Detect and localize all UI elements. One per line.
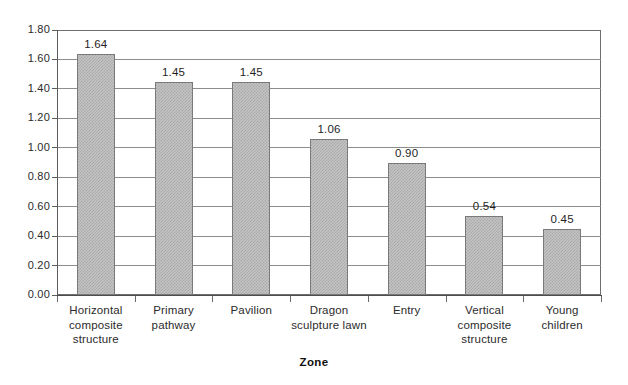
x-axis-title: Zone: [0, 356, 628, 368]
x-axis-tick-mark: [135, 296, 136, 302]
x-axis-category-label-line: Pavilion: [206, 303, 296, 318]
x-axis-category-label: Dragonsculpture lawn: [284, 303, 374, 332]
bar-value-label: 0.45: [532, 213, 592, 225]
x-axis-category-label-line: children: [517, 318, 607, 333]
x-axis-tick-mark: [212, 296, 213, 302]
x-axis-category-label: Entry: [362, 303, 452, 318]
y-axis-tick-label: 1.20: [4, 112, 50, 123]
x-axis-category-label-line: Young: [517, 303, 607, 318]
bar[interactable]: [77, 54, 115, 295]
x-axis-category-label: Verticalcompositestructure: [440, 303, 530, 347]
x-axis-category-label-line: structure: [51, 332, 141, 347]
bar[interactable]: [388, 163, 426, 296]
y-axis-tick-label: 1.40: [4, 83, 50, 94]
bar-group: [57, 30, 601, 295]
y-axis-tick-label: 1.60: [4, 53, 50, 64]
y-axis-tick-label: 1.00: [4, 142, 50, 153]
x-axis-tick-mark: [601, 296, 602, 302]
bar[interactable]: [155, 82, 193, 295]
x-axis-category-label-line: pathway: [129, 318, 219, 333]
x-axis-category-label-line: structure: [440, 332, 530, 347]
bar-value-label: 1.06: [299, 123, 359, 135]
x-axis-category-label-line: Entry: [362, 303, 452, 318]
bar-value-label: 0.54: [454, 200, 514, 212]
y-axis-tick-label: 0.80: [4, 171, 50, 182]
x-axis-category-label-line: Dragon: [284, 303, 374, 318]
x-axis-category-label-line: composite: [440, 318, 530, 333]
x-axis-category-label-line: sculpture lawn: [284, 318, 374, 333]
bar-value-label: 1.45: [144, 66, 204, 78]
x-axis-category-label: Horizontalcompositestructure: [51, 303, 141, 347]
x-axis-line: [57, 295, 602, 296]
x-axis-tick-mark: [446, 296, 447, 302]
bar-value-label: 1.45: [221, 66, 281, 78]
x-axis-tick-mark: [57, 296, 58, 302]
x-axis-category-label: Pavilion: [206, 303, 296, 318]
bar[interactable]: [232, 82, 270, 295]
bar-value-label: 0.90: [377, 147, 437, 159]
bar[interactable]: [543, 229, 581, 295]
bar-chart: 0.000.200.400.600.801.001.201.401.601.80…: [0, 0, 628, 385]
x-axis-category-label: Youngchildren: [517, 303, 607, 332]
x-axis-tick-mark: [368, 296, 369, 302]
bar[interactable]: [310, 139, 348, 295]
bar-value-label: 1.64: [66, 38, 126, 50]
x-axis-category-label-line: Primary: [129, 303, 219, 318]
bar[interactable]: [465, 216, 503, 296]
x-axis-category-label-line: composite: [51, 318, 141, 333]
x-axis-tick-mark: [523, 296, 524, 302]
y-axis-tick-label: 1.80: [4, 24, 50, 35]
y-axis-tick-label: 0.60: [4, 201, 50, 212]
x-axis-tick-mark: [290, 296, 291, 302]
y-axis-tick-label: 0.40: [4, 230, 50, 241]
x-axis-category-label-line: Horizontal: [51, 303, 141, 318]
x-axis-category-label-line: Vertical: [440, 303, 530, 318]
y-axis-tick-label: 0.00: [4, 289, 50, 300]
x-axis-category-label: Primarypathway: [129, 303, 219, 332]
y-axis-tick-label: 0.20: [4, 260, 50, 271]
